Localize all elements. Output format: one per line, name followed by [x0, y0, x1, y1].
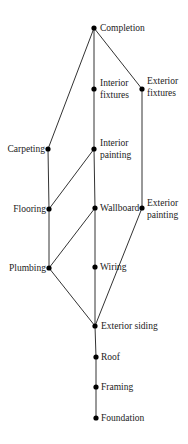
label-plumbing: Plumbing [9, 262, 46, 274]
label-roof: Roof [101, 351, 120, 363]
edge-interior-painting-to-wallboard [94, 149, 95, 208]
label-interior-painting-line2: painting [100, 149, 131, 161]
label-interior-fixtures-line2: fixtures [100, 89, 129, 101]
node-exterior-siding [92, 323, 97, 328]
node-foundation [93, 415, 98, 420]
node-roof [93, 354, 98, 359]
label-exterior-painting-line2: painting [147, 209, 178, 221]
node-wallboard [92, 205, 97, 210]
label-interior-painting-line1: Interior [100, 137, 131, 149]
node-carpeting [45, 146, 50, 151]
node-wiring [92, 264, 97, 269]
node-interior-painting [91, 146, 96, 151]
edge-completion-to-carpeting [48, 28, 94, 149]
label-interior-fixtures: Interior fixtures [100, 77, 129, 101]
label-wiring: Wiring [100, 261, 127, 273]
label-interior-fixtures-line1: Interior [100, 77, 129, 89]
label-exterior-fixtures-line2: fixtures [147, 87, 178, 99]
label-wallboard: Wallboard [100, 202, 139, 214]
node-plumbing [46, 265, 51, 270]
edge-plumbing-to-exterior-siding [49, 268, 95, 326]
edge-exterior-siding-to-roof [95, 326, 96, 357]
edge-interior-painting-to-flooring [49, 149, 94, 209]
label-exterior-painting-line1: Exterior [147, 197, 178, 209]
precedence-diagram: Completion Interior fixtures Exterior fi… [0, 0, 188, 444]
label-foundation: Foundation [101, 412, 144, 424]
node-exterior-fixtures [139, 86, 144, 91]
label-interior-painting: Interior painting [100, 137, 131, 161]
label-exterior-siding: Exterior siding [101, 320, 158, 332]
edge-wallboard-to-plumbing [49, 208, 95, 268]
label-exterior-fixtures: Exterior fixtures [147, 75, 178, 99]
label-completion: Completion [100, 22, 145, 34]
label-exterior-fixtures-line1: Exterior [147, 75, 178, 87]
node-flooring [46, 206, 51, 211]
node-interior-fixtures [91, 86, 96, 91]
edge-carpeting-to-flooring [48, 149, 49, 209]
node-framing [93, 384, 98, 389]
label-exterior-painting: Exterior painting [147, 197, 178, 221]
label-carpeting: Carpeting [8, 143, 45, 155]
label-framing: Framing [101, 381, 133, 393]
node-exterior-painting [139, 205, 144, 210]
node-completion [91, 25, 96, 30]
label-flooring: Flooring [13, 203, 46, 215]
diagram-graph [0, 0, 188, 444]
